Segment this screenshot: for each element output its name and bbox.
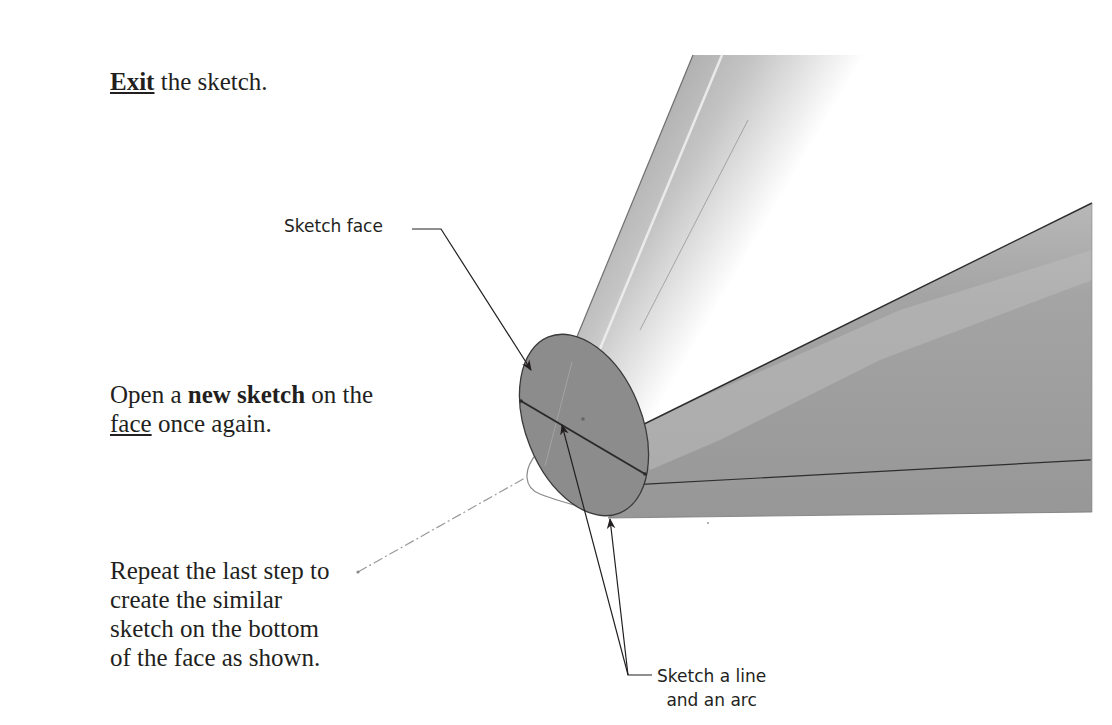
axis-endpoint — [356, 570, 359, 573]
callout-sketch-line-arc: Sketch a line and an arc — [657, 664, 766, 712]
line-endpoint — [643, 472, 647, 476]
axis-centerline — [358, 478, 525, 572]
cad-model-figure — [0, 0, 1112, 725]
callout-line1: Sketch a line — [657, 664, 766, 688]
line-endpoint — [519, 399, 523, 403]
sketch-face-leader — [412, 229, 531, 370]
stray-point — [707, 522, 709, 524]
callout-sketch-face: Sketch face — [284, 214, 383, 238]
callout-line2: and an arc — [657, 688, 766, 712]
